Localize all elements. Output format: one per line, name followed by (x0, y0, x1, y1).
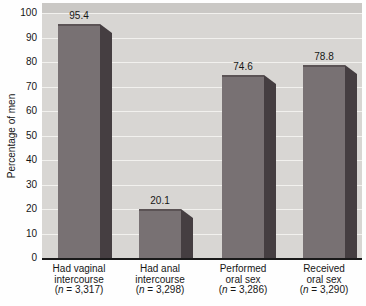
y-axis-tick-labels: 0102030405060708090100 (0, 0, 40, 306)
category-line1: Performed (203, 264, 283, 275)
n-symbol: n (139, 284, 145, 295)
category-label-3: Performedoral sex(n = 3,286) (203, 264, 283, 296)
bar-value-label: 74.6 (213, 61, 273, 72)
category-n-line: (n = 3,317) (39, 285, 119, 296)
category-line1: Received (284, 264, 364, 275)
n-close: ) (345, 284, 348, 295)
bar-3 (222, 75, 276, 258)
y-tick-label-100: 100 (7, 7, 37, 19)
n-open: ( (55, 284, 58, 295)
bar-2 (139, 209, 193, 258)
y-tick-label-90: 90 (7, 32, 37, 44)
category-line2: oral sex (203, 275, 283, 286)
n-value: 3,286 (239, 284, 264, 295)
n-open: ( (219, 284, 222, 295)
bar-front-face (139, 209, 181, 258)
bar-chart-figure: Percentage of men 0102030405060708090100… (0, 0, 366, 306)
y-tick-label-30: 30 (7, 179, 37, 191)
category-label-4: Receivedoral sex(n = 3,290) (284, 264, 364, 296)
bar-side-face (181, 209, 193, 258)
category-line1: Had anal (120, 264, 200, 275)
category-label-1: Had vaginalintercourse(n = 3,317) (39, 264, 119, 296)
bar-side-face (264, 75, 276, 258)
y-tick-label-20: 20 (7, 203, 37, 215)
y-tick-label-50: 50 (7, 130, 37, 142)
bar-value-label: 95.4 (49, 10, 109, 21)
n-close: ) (100, 284, 103, 295)
bar-1 (58, 24, 112, 258)
n-value: 3,298 (156, 284, 181, 295)
y-tick-label-10: 10 (7, 228, 37, 240)
n-symbol: n (303, 284, 309, 295)
bar-front-face (58, 24, 100, 258)
n-value: 3,290 (320, 284, 345, 295)
category-line2: intercourse (120, 275, 200, 286)
bar-value-label: 78.8 (294, 51, 354, 62)
bar-4 (303, 65, 357, 258)
category-line2: intercourse (39, 275, 119, 286)
category-line2: oral sex (284, 275, 364, 286)
n-close: ) (181, 284, 184, 295)
y-tick-label-80: 80 (7, 56, 37, 68)
n-symbol: n (58, 284, 64, 295)
n-open: ( (300, 284, 303, 295)
y-tick-label-70: 70 (7, 81, 37, 93)
y-tick-label-60: 60 (7, 105, 37, 117)
category-n-line: (n = 3,286) (203, 285, 283, 296)
plot-area: 95.420.174.678.8 (42, 3, 362, 260)
category-label-2: Had analintercourse(n = 3,298) (120, 264, 200, 296)
y-tick-label-40: 40 (7, 154, 37, 166)
category-n-line: (n = 3,298) (120, 285, 200, 296)
bar-front-face (303, 65, 345, 258)
n-symbol: n (222, 284, 228, 295)
bar-side-face (100, 24, 112, 258)
bar-front-face (222, 75, 264, 258)
n-eq: = (64, 284, 75, 295)
n-open: ( (136, 284, 139, 295)
y-tick-label-0: 0 (7, 252, 37, 264)
n-eq: = (145, 284, 156, 295)
n-eq: = (228, 284, 239, 295)
category-line1: Had vaginal (39, 264, 119, 275)
bar-side-face (345, 65, 357, 258)
n-eq: = (309, 284, 320, 295)
n-close: ) (264, 284, 267, 295)
n-value: 3,317 (75, 284, 100, 295)
category-n-line: (n = 3,290) (284, 285, 364, 296)
bar-value-label: 20.1 (130, 195, 190, 206)
